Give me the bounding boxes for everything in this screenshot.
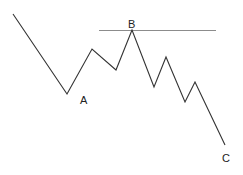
label-b: B: [128, 18, 135, 30]
label-a: A: [80, 94, 88, 106]
wave-diagram: A B C: [0, 0, 243, 175]
price-wave-line: [13, 14, 225, 145]
label-c: C: [222, 152, 230, 164]
